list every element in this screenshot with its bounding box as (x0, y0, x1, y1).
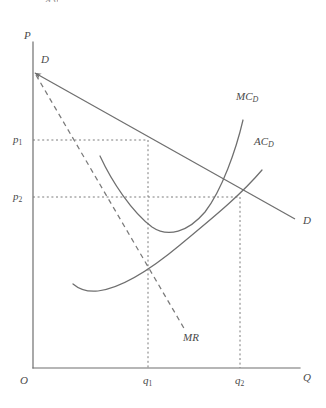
price-tick-p2: p2 (13, 191, 22, 202)
diagram-canvas: g y P Q O p1 p2 q1 q2 D D (0, 0, 326, 408)
marginal-revenue-label: MR (183, 332, 199, 343)
price-tick-p1-sub: 1 (19, 138, 23, 147)
origin-label: O (20, 375, 28, 386)
price-tick-p1-text: p (13, 133, 19, 145)
curves-group (35, 73, 295, 330)
price-tick-p2-sub: 2 (19, 195, 23, 204)
marginal-cost-curve (100, 120, 243, 232)
marginal-cost-label-sub: D (253, 95, 259, 104)
demand-top-label: D (41, 54, 49, 65)
quantity-tick-q2-sub: 2 (241, 379, 245, 388)
price-tick-p2-text: p (13, 190, 19, 202)
quantity-tick-q1-text: q (143, 374, 149, 386)
marginal-cost-label-text: MC (236, 90, 253, 102)
demand-end-label: D (303, 215, 311, 226)
quantity-tick-q2: q2 (235, 375, 244, 386)
average-cost-curve (73, 170, 262, 291)
quantity-tick-q1: q1 (143, 375, 152, 386)
y-axis-label: P (24, 30, 31, 41)
quantity-tick-q2-text: q (235, 374, 241, 386)
guide-lines-group (33, 140, 240, 368)
quantity-tick-q1-sub: 1 (149, 379, 153, 388)
average-cost-label-text: AC (254, 135, 268, 147)
average-cost-label: ACD (254, 136, 274, 147)
marginal-cost-label: MCD (236, 91, 258, 102)
marginal-revenue-curve (36, 75, 185, 330)
axes-group (33, 42, 300, 368)
average-cost-label-sub: D (268, 140, 274, 149)
x-axis-label: Q (303, 372, 311, 383)
price-tick-p1: p1 (13, 134, 22, 145)
